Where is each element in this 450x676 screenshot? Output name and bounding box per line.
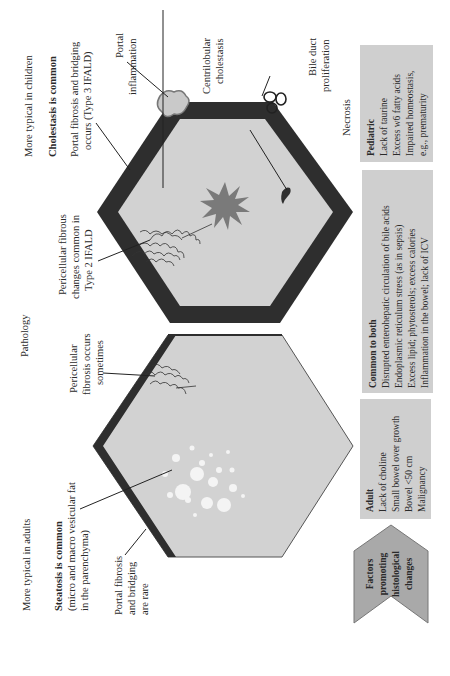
chevron-label-line3: histological bbox=[391, 551, 401, 597]
pericellular-adults-line3: sometimes bbox=[94, 340, 105, 385]
children-subheading: Cholestasis is common bbox=[47, 56, 58, 157]
portal-fibrosis-adults-line3: are rare bbox=[139, 583, 150, 615]
common-item: Endoplasmic reticulum stress (as in seps… bbox=[394, 225, 405, 388]
bile-duct-line2: proliferation bbox=[320, 39, 331, 92]
pediatric-item: Lack of taurine bbox=[379, 98, 389, 156]
figure-title: Pathology bbox=[19, 314, 30, 357]
pericellular-adults-line2: fibrosis occurs bbox=[81, 333, 92, 395]
adult-item: Small bowel over growth bbox=[391, 415, 401, 512]
portal-fibrosis-children-line2: occurs (Type 3 IFALD) bbox=[82, 51, 94, 150]
chevron-label-line2: promoting bbox=[378, 552, 388, 595]
adults-hexagon bbox=[93, 335, 353, 557]
adult-item: Lack of choline bbox=[378, 452, 388, 512]
common-item: Inflammation in the bowel; lack of ICV bbox=[420, 237, 430, 388]
children-heading: More typical in children bbox=[23, 54, 34, 157]
adult-item: Malignancy bbox=[417, 466, 427, 512]
portal-inflammation-line1: Portal bbox=[114, 33, 125, 58]
chevron-label-line4: changes bbox=[404, 558, 414, 591]
chevron-label-line1: Factors bbox=[365, 558, 375, 589]
portal-inflammation-line2: inflammation bbox=[127, 38, 138, 95]
centrilobular-line1: Centrilobular bbox=[201, 38, 212, 94]
common-title: Common to both bbox=[368, 319, 378, 388]
portal-fibrosis-adults-line2: and bridging bbox=[126, 561, 137, 615]
common-item: Excess lipid; phytosterols; excess calor… bbox=[407, 228, 417, 388]
pericellular-children-line3: Type 2 IFALD bbox=[83, 229, 94, 291]
adult-title: Adult bbox=[365, 488, 375, 512]
pediatric-item: Impaired homeostasis, bbox=[405, 71, 415, 156]
pericellular-adults-line1: Pericellular bbox=[68, 344, 79, 393]
bile-duct-line1: Bile duct bbox=[307, 38, 318, 76]
pediatric-title: Pediatric bbox=[366, 119, 376, 156]
diagram-canvas: Pathology More typical in children Chole… bbox=[0, 0, 450, 676]
ifald-pathology-figure: Pathology More typical in children Chole… bbox=[0, 0, 450, 676]
common-item: Disrupted enterohepatic circulation of b… bbox=[381, 205, 391, 388]
children-hexagon bbox=[97, 91, 353, 323]
steatosis-detail-line1: (micro and macro vesicular fat bbox=[66, 482, 78, 611]
centrilobular-line2: cholestasis bbox=[214, 39, 225, 85]
adult-item: Bowel <50 cm bbox=[404, 455, 414, 512]
adults-heading: More typical in adults bbox=[21, 519, 32, 611]
portal-fibrosis-adults-line1: Portal fibrosis bbox=[113, 556, 124, 615]
steatosis-detail-line2: in the parenchyma) bbox=[79, 529, 91, 611]
necrosis-label: Necrosis bbox=[341, 99, 352, 136]
portal-fibrosis-children-line1: Portal fibrosis and bridging bbox=[69, 41, 80, 157]
pericellular-children-line2: changes common in bbox=[70, 214, 81, 299]
pericellular-children-line1: Pericellular fibrous bbox=[57, 214, 68, 295]
pediatric-item: Excess w6 fatty acids bbox=[392, 74, 402, 156]
pediatric-item: e.g., prematurity bbox=[418, 93, 428, 156]
adults-subheading: Steatosis is common bbox=[53, 521, 64, 611]
